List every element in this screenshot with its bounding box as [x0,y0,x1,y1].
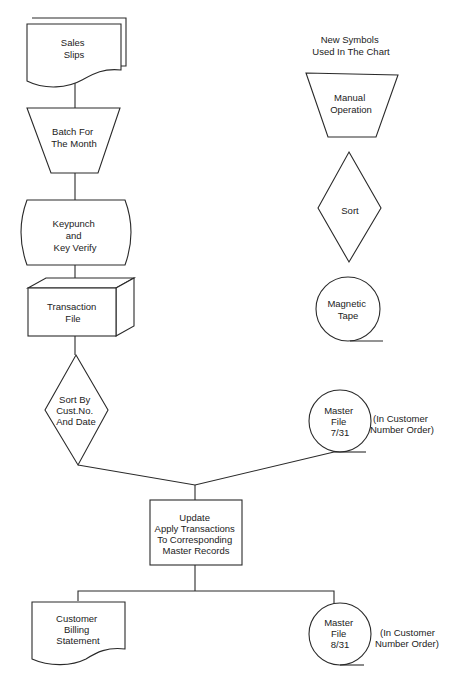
legend-title: New Symbols Used In The Chart [312,34,390,57]
update-node: Update Apply Transactions To Correspondi… [150,500,242,565]
legend-item-manual-operation: Manual Operation [306,73,398,137]
sort-node: Sort By Cust.No. And Date [45,355,108,465]
master-file-in-note: (In Customer Number Order) [370,413,434,435]
legend-manual-operation-label: Manual Operation [330,92,372,115]
batch-label: Batch For The Month [51,126,96,149]
box-side-face [116,278,134,336]
legend-item-magnetic-tape: Magnetic Tape [316,277,383,341]
sales-slips-node: Sales Slips [27,18,126,87]
billing-statement-node: Customer Billing Statement [32,602,125,665]
master-file-in-node: Master File 7/31 (In Customer Number Ord… [309,390,434,452]
connector-sort-and-master-to-junction [78,452,334,485]
magnetic-tape-icon [316,277,380,341]
sales-slips-label: Sales Slips [61,37,87,60]
flowchart: Sales Slips Batch For The Month Keypunch… [0,0,457,682]
keypunch-node: Keypunch and Key Verify [21,200,131,265]
batch-node: Batch For The Month [27,108,120,173]
master-file-out-node: Master File 8/31 (In Customer Number Ord… [309,603,439,665]
transaction-file-node: Transaction File [28,278,134,336]
legend-item-sort: Sort [318,152,381,262]
sort-label: Sort By Cust.No. And Date [56,394,96,427]
connector-outputs-branch [78,591,334,603]
master-file-out-note: (In Customer Number Order) [375,627,439,649]
offline-storage-icon [28,288,116,336]
symbols-legend: New Symbols Used In The Chart Manual Ope… [306,34,398,341]
legend-sort-label: Sort [341,205,359,216]
